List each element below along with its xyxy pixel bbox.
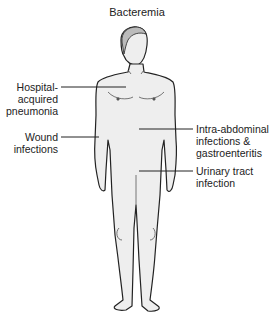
label-wound-infections: Wound infections [4, 131, 58, 155]
label-line: infection [196, 177, 253, 189]
label-line: infections & [196, 135, 269, 147]
label-line: Wound [4, 131, 58, 143]
label-line: pneumonia [4, 105, 58, 117]
label-line: acquired [4, 93, 58, 105]
label-line: Intra-abdominal [196, 123, 269, 135]
human-body-figure [0, 0, 274, 319]
label-line: Urinary tract [196, 165, 253, 177]
label-intra-abdominal: Intra-abdominal infections & gastroenter… [196, 123, 269, 159]
label-line: infections [4, 143, 58, 155]
label-line: Hospital- [4, 81, 58, 93]
label-urinary-tract: Urinary tract infection [196, 165, 253, 189]
label-hospital-pneumonia: Hospital- acquired pneumonia [4, 81, 58, 117]
label-line: gastroenteritis [196, 147, 269, 159]
